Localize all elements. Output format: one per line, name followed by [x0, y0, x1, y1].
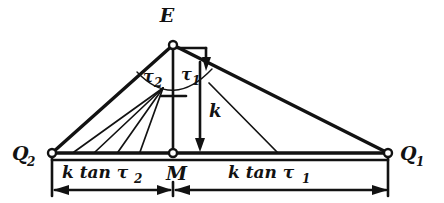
label-left-base-subscript: 2 — [26, 155, 35, 169]
label-tau2-subscript: 2 — [153, 76, 162, 90]
label-apex-E: E — [159, 4, 175, 26]
figure-canvas: E Q 2 M Q 1 τ 2 τ 1 k k tan τ 2 k tan τ … — [0, 0, 444, 203]
label-left-segment: k tan τ 2 — [62, 162, 142, 186]
label-right-segment-subscript: 1 — [302, 172, 310, 186]
left-ray-3 — [118, 88, 163, 152]
label-right-base-Q1: Q 1 — [400, 142, 424, 169]
label-right-segment: k tan τ 1 — [228, 162, 310, 186]
label-right-segment-text: k tan τ — [228, 162, 295, 182]
dim-line-right-segment — [174, 185, 388, 195]
dim-line-left-segment — [53, 185, 172, 195]
left-ray-4 — [140, 88, 163, 152]
geometry-figure: E Q 2 M Q 1 τ 2 τ 1 k k tan τ 2 k tan τ … — [0, 0, 444, 203]
height-arrow-head — [195, 138, 205, 152]
right-angle-marker — [174, 48, 211, 71]
label-tau2-symbol: τ — [143, 67, 154, 86]
dim-right-arrow-end — [372, 185, 388, 195]
label-angle-tau1: τ 1 — [181, 65, 200, 88]
label-left-base-Q2: Q 2 — [12, 142, 35, 169]
dim-left-arrow-start — [53, 185, 69, 195]
label-left-segment-subscript: 2 — [133, 172, 142, 186]
label-right-base-letter: Q — [400, 142, 417, 164]
label-mid-base-M: M — [165, 162, 188, 184]
vertex-dot-apex — [169, 41, 177, 49]
label-tau1-subscript: 1 — [192, 74, 200, 88]
vertex-dot-left-base — [48, 149, 56, 157]
dim-left-arrow-end — [157, 185, 172, 195]
dim-right-arrow-start — [174, 185, 190, 195]
left-ray-2 — [95, 88, 163, 152]
label-height-k: k — [209, 100, 221, 121]
label-left-segment-text: k tan τ — [62, 162, 129, 182]
vertex-dot-mid-base — [169, 149, 177, 157]
label-tau1-symbol: τ — [181, 65, 192, 84]
label-angle-tau2: τ 2 — [143, 67, 162, 90]
vertex-dot-right-base — [384, 149, 392, 157]
label-right-base-subscript: 1 — [416, 155, 424, 169]
